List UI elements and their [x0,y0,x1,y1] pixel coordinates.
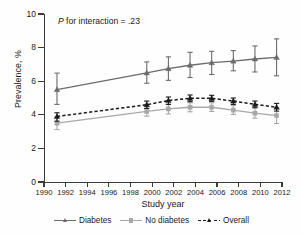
legend-item-diabetes[interactable]: Diabetes [54,216,111,225]
x-tick-mark [195,182,196,187]
data-point-marker [210,105,214,109]
legend-item-no-diabetes[interactable]: No diabetes [120,216,189,225]
y-tick-label: 0 [0,178,36,187]
legend-marker-triangle-icon [198,217,220,225]
legend-point [63,218,67,222]
y-axis-label: Prevalence, % [13,9,23,149]
x-tick-mark [152,182,153,187]
data-point-marker [253,111,257,115]
legend-item-overall[interactable]: Overall [198,216,249,225]
legend-point [207,218,211,222]
legend-marker-triangle-icon [54,217,76,225]
x-axis-line [44,182,282,183]
x-tick-mark [108,182,109,187]
legend-label: No diabetes [145,216,189,225]
x-tick-label: 2012 [267,189,297,197]
plot-area [44,14,282,182]
x-tick-mark [260,182,261,187]
x-tick-mark [281,182,282,187]
x-axis-label: Study year [44,199,282,209]
data-point-marker [188,105,192,109]
legend-label: Diabetes [79,216,111,225]
series-line [57,57,277,89]
legend-point [129,218,133,222]
x-tick-mark [87,182,88,187]
x-tick-mark [65,182,66,187]
legend: DiabetesNo diabetesOverall [0,216,303,225]
data-point-marker [274,104,280,109]
data-point-marker [145,109,149,113]
x-tick-mark [173,182,174,187]
series-layer [44,14,282,182]
series-diabetes [54,39,279,105]
x-tick-mark [130,182,131,187]
data-point-marker [166,107,170,111]
x-tick-mark [238,182,239,187]
x-tick-mark [216,182,217,187]
data-point-marker [274,114,278,118]
x-tick-mark [43,182,44,187]
data-point-marker [231,108,235,112]
figure-prevalence-by-diabetes-status: P for interaction = .23 0246810 19901992… [0,0,303,234]
legend-label: Overall [223,216,249,225]
legend-marker-square-icon [120,217,142,225]
series-no-diabetes [54,103,279,130]
